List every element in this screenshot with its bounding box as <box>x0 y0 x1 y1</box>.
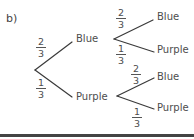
prob-purple-blue: 2 3 <box>131 64 141 85</box>
outcome-purple: Purple <box>76 92 108 102</box>
prob-purple-purple: 1 3 <box>132 107 142 128</box>
outcome-blue-purple: Purple <box>157 45 189 55</box>
bottom-divider <box>0 134 194 137</box>
prob-blue: 2 3 <box>36 37 46 58</box>
prob-purple: 1 3 <box>36 78 46 99</box>
outcome-purple-purple: Purple <box>157 103 189 113</box>
prob-blue-blue: 2 3 <box>116 8 126 29</box>
prob-blue-purple: 1 3 <box>116 44 126 65</box>
outcome-blue-blue: Blue <box>157 12 179 22</box>
outcome-purple-blue: Blue <box>157 72 179 82</box>
probability-tree-diagram: b) 2 3 1 3 Blue Purple 2 3 1 3 Blue Purp… <box>0 0 194 139</box>
outcome-blue: Blue <box>76 34 98 44</box>
